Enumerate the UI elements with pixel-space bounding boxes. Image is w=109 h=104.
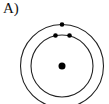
outer-electron [60,22,65,27]
nucleus [59,63,66,70]
inner-electron-left [53,33,58,38]
bohr-model-diagram [0,0,109,104]
inner-electron-right [67,33,72,38]
